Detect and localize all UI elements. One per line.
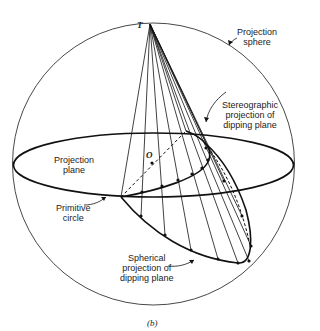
point-o-dot	[150, 161, 153, 164]
spherical-projection-label: Spherical projection of dipping plane	[120, 253, 174, 283]
stereographic-projection-arc	[121, 131, 210, 197]
label-line: plane	[54, 165, 94, 175]
primitive-circle-label: Primitive circle	[56, 203, 91, 223]
label-line: projection of	[120, 263, 174, 273]
label-line: dipping plane	[222, 120, 278, 130]
spherical-dots	[139, 179, 252, 264]
projection-rays	[121, 24, 251, 263]
figure-caption: (b)	[147, 318, 158, 328]
point-t-label: T	[137, 20, 143, 30]
label-line: Primitive	[56, 203, 91, 213]
stereographic-projection-label: Stereographic projection of dipping plan…	[222, 100, 278, 130]
label-line: Stereographic	[222, 100, 278, 110]
label-line: sphere	[237, 37, 277, 47]
label-line: dipping plane	[120, 273, 174, 283]
label-line: circle	[56, 213, 91, 223]
label-line: Projection	[54, 155, 94, 165]
label-line: Spherical	[120, 253, 174, 263]
projection-sphere-label: Projection sphere	[237, 27, 277, 47]
projection-plane-label: Projection plane	[54, 155, 94, 175]
label-line: projection of	[222, 110, 278, 120]
point-o-label: O	[146, 150, 153, 160]
label-line: Projection	[237, 27, 277, 37]
